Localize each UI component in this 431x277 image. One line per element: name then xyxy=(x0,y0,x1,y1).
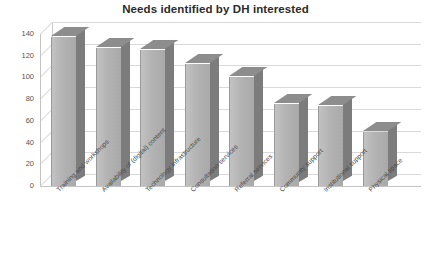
bar xyxy=(185,54,210,186)
y-tick-label: 140 xyxy=(6,30,34,38)
plot-area xyxy=(40,22,421,186)
y-tick-label: 20 xyxy=(6,160,34,168)
bar xyxy=(96,38,121,186)
bar-front-face xyxy=(51,37,76,186)
bar-front-face xyxy=(185,64,210,186)
chart-figure: Needs identified by DH interested 020406… xyxy=(0,0,431,277)
x-axis-category-labels: Training and workshopsAvailability of (d… xyxy=(0,186,431,277)
bar xyxy=(229,67,254,186)
y-axis-tick-labels: 020406080100120140 xyxy=(0,22,38,192)
chart-title: Needs identified by DH interested xyxy=(0,3,431,15)
y-tick-label: 80 xyxy=(6,95,34,103)
y-tick-label: 100 xyxy=(6,73,34,81)
bar xyxy=(51,27,76,186)
y-tick-label: 60 xyxy=(6,117,34,125)
y-axis-line xyxy=(40,34,41,186)
bar-front-face xyxy=(96,48,121,186)
y-tick-label: 40 xyxy=(6,139,34,147)
gridline xyxy=(52,22,421,23)
y-tick-label: 120 xyxy=(6,52,34,60)
bar-front-face xyxy=(140,50,165,186)
bar xyxy=(140,40,165,186)
